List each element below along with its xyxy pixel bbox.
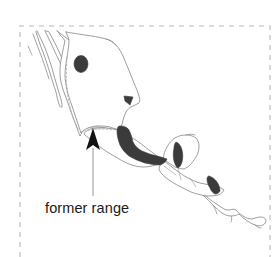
range-map-figure: former range — [0, 0, 279, 257]
range-patch-north-central-mexico — [74, 56, 88, 73]
isthmus-panama-outline — [204, 196, 266, 228]
map-canvas: former range — [0, 0, 279, 257]
map-frame-border — [20, 26, 270, 257]
former-range-label: former range — [45, 200, 129, 216]
mexico-mainland-outline — [57, 31, 140, 136]
